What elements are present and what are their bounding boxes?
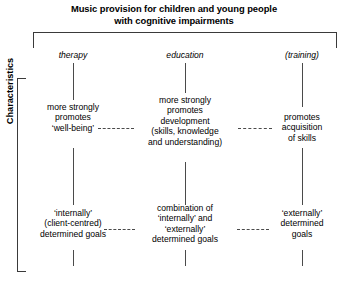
cell-training-characteristic-2: ‘externally’ determined goals [281,208,324,239]
connector-row1-right [238,128,272,129]
top-grouping-bracket [33,32,337,48]
stem-therapy-to-row2 [73,148,74,205]
characteristics-bracket [17,78,26,272]
stem-training-to-row2 [302,148,303,205]
column-heading-therapy: therapy [59,50,88,60]
stem-education-bottom [185,250,186,266]
stem-training-bottom [302,250,303,266]
column-heading-training: (training) [285,50,319,60]
cell-therapy-characteristic-2: ‘internally’ (client-centred) determined… [40,208,106,239]
figure-diagram: Music provision for children and young p… [0,0,346,282]
cell-education-characteristic-2: combination of ‘internally’ and ‘externa… [152,203,218,245]
figure-title-line-2: with cognitive impairments [18,15,330,27]
cell-education-characteristic-1: more strongly promotes development (skil… [148,95,222,147]
cell-therapy-characteristic-1: more strongly promotes ‘well-being’ [47,102,99,133]
characteristics-axis-label: Characteristics [5,26,15,156]
connector-row2-right [237,229,269,230]
figure-title-line-1: Music provision for children and young p… [18,3,330,15]
connector-row1-left [98,128,134,129]
stem-education-to-row1 [185,63,186,93]
figure-title: Music provision for children and young p… [18,3,330,26]
stem-therapy-bottom [73,250,74,266]
connector-row2-left [104,229,135,230]
cell-training-characteristic-1: promotes acquisition of skills [282,112,323,143]
column-heading-education: education [166,50,203,60]
stem-training-to-row1 [302,63,303,107]
stem-therapy-to-row1 [73,63,74,100]
stem-education-to-row2 [185,162,186,205]
